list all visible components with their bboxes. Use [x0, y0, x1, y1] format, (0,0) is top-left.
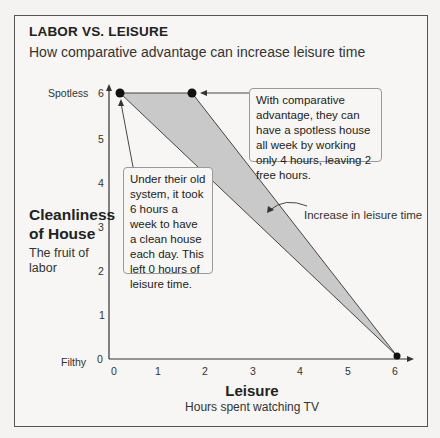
- y-tick: 1: [99, 309, 105, 321]
- x-tick: 6: [392, 365, 398, 377]
- y-axis-subtitle: The fruit of labor: [29, 246, 99, 276]
- arrowhead-icon: [200, 90, 207, 96]
- x-tick: 5: [345, 365, 351, 377]
- x-axis-arrow-icon: [407, 356, 414, 362]
- comparative-advantage-callout: With comparative advantage, they can hav…: [249, 88, 382, 162]
- point-comparative: [188, 89, 197, 98]
- old-system-pointer: [121, 103, 133, 167]
- y-tick: 5: [98, 133, 104, 145]
- y-axis-arrow-icon: [106, 84, 112, 91]
- x-tick: 3: [250, 365, 256, 377]
- old-system-callout: Under their old system, it took 6 hours …: [123, 167, 213, 274]
- y-tick: 6: [98, 87, 104, 99]
- y-axis-title: Cleanliness of House: [29, 205, 109, 243]
- x-axis-title: Leisure: [0, 382, 440, 399]
- increase-annotation: Increase in leisure time: [304, 209, 422, 221]
- y-tick: 0: [97, 353, 103, 365]
- x-tick: 4: [297, 365, 303, 377]
- x-tick: 1: [155, 365, 161, 377]
- y-tick: 4: [98, 177, 104, 189]
- x-axis-subtitle: Hours spent watching TV: [0, 400, 440, 414]
- x-tick: 0: [111, 365, 117, 377]
- point-max-leisure: [394, 353, 401, 360]
- point-old-system: [116, 89, 125, 98]
- y-label-filthy: Filthy: [61, 356, 87, 368]
- y-label-spotless: Spotless: [48, 87, 88, 99]
- x-tick: 2: [202, 365, 208, 377]
- arrowhead-icon: [118, 99, 124, 106]
